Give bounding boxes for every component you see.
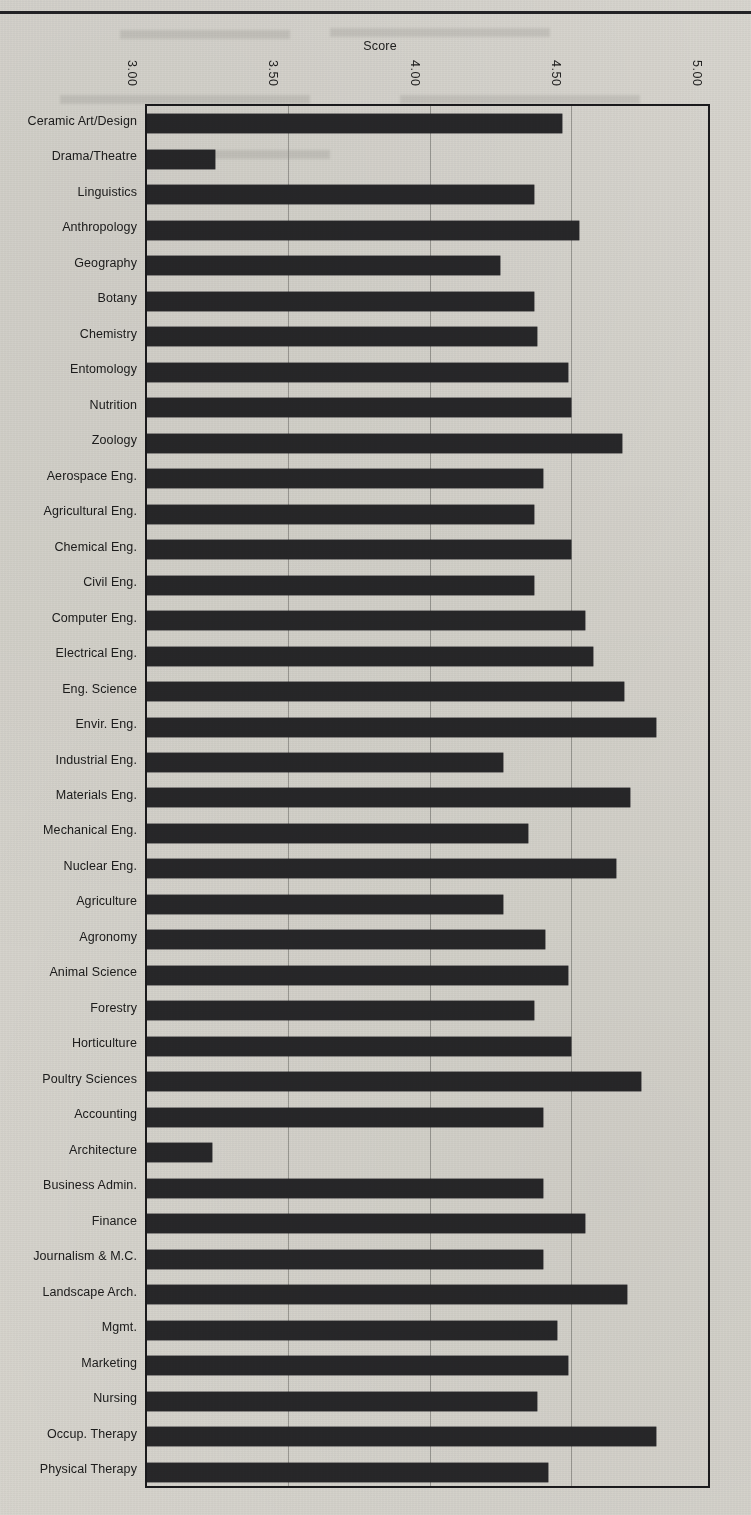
chart-axis-title: Score bbox=[363, 39, 397, 53]
y-tick-label: Electrical Eng. bbox=[0, 646, 137, 660]
y-tick-label: Mechanical Eng. bbox=[0, 823, 137, 837]
x-tick-label: 5.00 bbox=[690, 60, 704, 86]
y-tick-label: Physical Therapy bbox=[0, 1462, 137, 1476]
y-tick-label: Computer Eng. bbox=[0, 611, 137, 625]
x-tick-label: 3.00 bbox=[125, 60, 139, 86]
page-top-rule bbox=[0, 11, 751, 14]
y-tick-label: Chemistry bbox=[0, 327, 137, 341]
y-axis-category-labels: Ceramic Art/DesignDrama/TheatreLinguisti… bbox=[0, 104, 751, 1488]
y-tick-label: Journalism & M.C. bbox=[0, 1249, 137, 1263]
y-tick-label: Ceramic Art/Design bbox=[0, 114, 137, 128]
y-tick-label: Architecture bbox=[0, 1143, 137, 1157]
y-tick-label: Business Admin. bbox=[0, 1178, 137, 1192]
y-tick-label: Chemical Eng. bbox=[0, 540, 137, 554]
y-tick-label: Civil Eng. bbox=[0, 575, 137, 589]
y-tick-label: Nutrition bbox=[0, 398, 137, 412]
y-tick-label: Industrial Eng. bbox=[0, 753, 137, 767]
y-tick-label: Poultry Sciences bbox=[0, 1072, 137, 1086]
y-tick-label: Animal Science bbox=[0, 965, 137, 979]
y-tick-label: Botany bbox=[0, 291, 137, 305]
y-tick-label: Anthropology bbox=[0, 220, 137, 234]
y-tick-label: Drama/Theatre bbox=[0, 149, 137, 163]
x-tick-label: 4.00 bbox=[408, 60, 422, 86]
y-tick-label: Nuclear Eng. bbox=[0, 859, 137, 873]
y-tick-label: Linguistics bbox=[0, 185, 137, 199]
y-tick-label: Mgmt. bbox=[0, 1320, 137, 1334]
y-tick-label: Agriculture bbox=[0, 894, 137, 908]
y-tick-label: Horticulture bbox=[0, 1036, 137, 1050]
y-tick-label: Aerospace Eng. bbox=[0, 469, 137, 483]
y-tick-label: Envir. Eng. bbox=[0, 717, 137, 731]
y-tick-label: Accounting bbox=[0, 1107, 137, 1121]
y-tick-label: Geography bbox=[0, 256, 137, 270]
x-tick-label: 4.50 bbox=[549, 60, 563, 86]
y-tick-label: Eng. Science bbox=[0, 682, 137, 696]
y-tick-label: Forestry bbox=[0, 1001, 137, 1015]
bar-chart: Score 3.003.504.004.505.00 Ceramic Art/D… bbox=[0, 0, 751, 1515]
y-tick-label: Entomology bbox=[0, 362, 137, 376]
y-tick-label: Finance bbox=[0, 1214, 137, 1228]
x-tick-label: 3.50 bbox=[266, 60, 280, 86]
y-tick-label: Zoology bbox=[0, 433, 137, 447]
y-tick-label: Agronomy bbox=[0, 930, 137, 944]
y-tick-label: Marketing bbox=[0, 1356, 137, 1370]
y-tick-label: Landscape Arch. bbox=[0, 1285, 137, 1299]
y-tick-label: Agricultural Eng. bbox=[0, 504, 137, 518]
y-tick-label: Materials Eng. bbox=[0, 788, 137, 802]
y-tick-label: Nursing bbox=[0, 1391, 137, 1405]
y-tick-label: Occup. Therapy bbox=[0, 1427, 137, 1441]
